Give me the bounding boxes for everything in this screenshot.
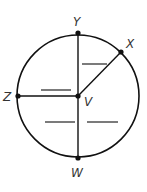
radius-vx xyxy=(78,52,121,96)
label-w: W xyxy=(71,166,84,180)
point-x-dot xyxy=(118,49,123,54)
point-z-dot xyxy=(15,93,20,98)
label-y: Y xyxy=(73,15,82,29)
label-v: V xyxy=(84,95,93,109)
label-z: Z xyxy=(2,90,12,104)
point-w-dot xyxy=(75,155,80,160)
point-y-dot xyxy=(75,30,80,35)
point-v-dot xyxy=(75,93,80,98)
circle-diagram: Y X Z V W xyxy=(0,0,147,192)
label-x: X xyxy=(125,37,135,51)
